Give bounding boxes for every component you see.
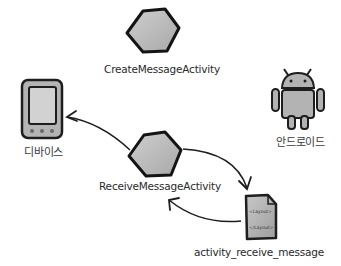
create-activity-hexagon-icon — [127, 9, 179, 52]
edge-layout-to-receive — [169, 198, 241, 222]
receive-activity-label: ReceiveMessageActivity — [99, 180, 221, 192]
create-activity-label: CreateMessageActivity — [104, 63, 220, 75]
android-label: 안드로이드 — [276, 133, 325, 149]
android-robot-icon — [272, 69, 324, 129]
layout-file-label: activity_receive_message — [194, 246, 324, 258]
layout-file-icon: <Layout> </Layout> — [246, 195, 276, 239]
edge-receive-to-device — [67, 111, 130, 150]
device-label: 디바이스 — [24, 143, 63, 159]
svg-text:</Layout>: </Layout> — [249, 225, 274, 230]
svg-text:<Layout>: <Layout> — [249, 209, 272, 214]
diagram-canvas: <Layout> </Layout> CreateMessageActivity… — [0, 0, 341, 266]
phone-device-icon — [22, 80, 62, 138]
receive-activity-hexagon-icon — [129, 132, 181, 176]
